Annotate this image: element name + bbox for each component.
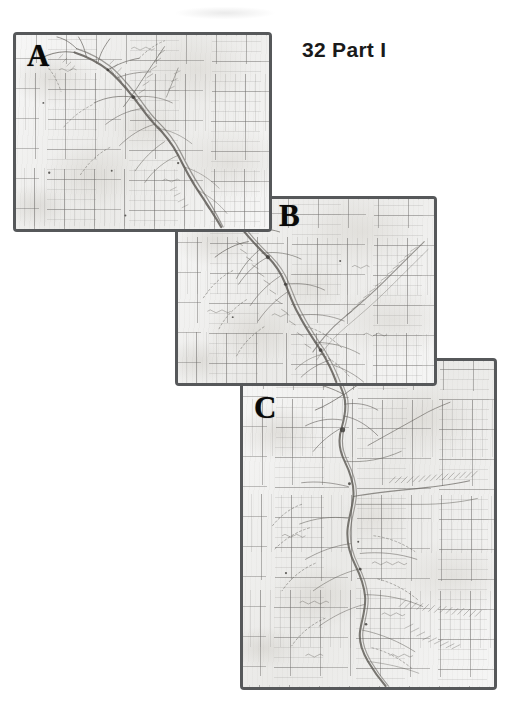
map-ink-drawing-c bbox=[243, 361, 494, 687]
map-ink-drawing-a bbox=[16, 35, 269, 229]
page-header: 32 Part I bbox=[302, 38, 386, 62]
map-plate: 32 Part I bbox=[0, 0, 528, 720]
scan-smudge bbox=[150, 4, 300, 22]
map-panel-a[interactable] bbox=[13, 32, 272, 232]
map-panel-c[interactable] bbox=[240, 358, 497, 690]
